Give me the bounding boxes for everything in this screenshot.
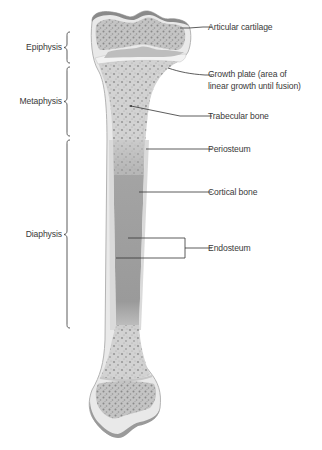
- diaphysis-bracket: [64, 140, 70, 328]
- trabecular-bone-pointer-dot: [130, 105, 132, 107]
- cortical-bone-label: Cortical bone: [208, 187, 257, 198]
- metaphysis-label: Metaphysis: [20, 96, 62, 107]
- growth-plate-label-line2: linear growth until fusion): [208, 81, 301, 92]
- periosteum-label: Periosteum: [208, 144, 250, 155]
- bone: [89, 11, 191, 438]
- endosteum-label: Endosteum: [208, 243, 251, 254]
- articular-cartilage-label: Articular cartilage: [208, 22, 273, 33]
- metaphysis-bracket: [64, 67, 70, 136]
- trabecular-bone-label: Trabecular bone: [208, 111, 269, 122]
- epiphysis-label: Epiphysis: [26, 42, 62, 53]
- diaphysis-label: Diaphysis: [26, 229, 62, 240]
- growth-plate-leader: [168, 68, 212, 75]
- epiphysis-bracket: [64, 32, 70, 63]
- region-brackets: [64, 32, 70, 328]
- growth-plate-label-line1: Growth plate (area of: [208, 69, 287, 80]
- long-bone-diagram: [0, 0, 322, 450]
